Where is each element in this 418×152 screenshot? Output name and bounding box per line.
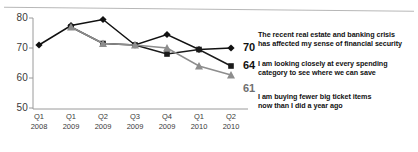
annotation-series-3-line2: now than I did a year ago: [258, 101, 416, 110]
x-axis-tick-1-year: 2009: [54, 122, 88, 132]
endpoint-value-series-1: 70: [243, 41, 255, 53]
x-axis-tick-5: Q1 2010: [182, 112, 216, 132]
x-axis-tick-4: Q4 2009: [150, 112, 184, 132]
annotation-series-2: I am looking closely at every spending c…: [258, 59, 416, 77]
y-tick-marks: [29, 18, 33, 108]
x-axis-tick-4-quarter: Q4: [150, 112, 184, 122]
x-axis-tick-5-quarter: Q1: [182, 112, 216, 122]
x-axis-tick-6: Q2 2010: [214, 112, 248, 132]
series-3-triangle: [67, 23, 235, 78]
x-axis-tick-0: Q1 2008: [22, 112, 56, 132]
series-1-marker-0: [35, 41, 42, 48]
annotation-series-2-line1: I am looking closely at every spending: [258, 59, 416, 68]
series-2-marker-5: [228, 63, 234, 69]
x-axis-tick-0-quarter: Q1: [22, 112, 56, 122]
series-1-marker-4: [163, 31, 170, 38]
x-axis-tick-3-quarter: Q3: [118, 112, 152, 122]
x-axis-tick-5-year: 2010: [182, 122, 216, 132]
x-axis-tick-4-year: 2009: [150, 122, 184, 132]
endpoint-value-series-3: 61: [243, 82, 255, 94]
x-axis-tick-2-year: 2009: [86, 122, 120, 132]
x-axis-tick-6-year: 2010: [214, 122, 248, 132]
annotation-series-1-line1: The recent real estate and banking crisi…: [258, 30, 416, 39]
series-3-marker-4: [195, 62, 203, 69]
annotation-series-1-line2: has affected my sense of financial secur…: [258, 39, 416, 48]
series-2-marker-3: [164, 51, 170, 57]
x-axis-tick-2-quarter: Q2: [86, 112, 120, 122]
endpoint-value-series-2: 64: [243, 59, 255, 71]
annotation-series-3: I am buying fewer big ticket items now t…: [258, 92, 416, 110]
x-axis-tick-2: Q2 2009: [86, 112, 120, 132]
x-axis-tick-3: Q3 2009: [118, 112, 152, 132]
chart-container: 80 70 60 50 Q1 2008 Q1 2009 Q2 2009 Q3 2…: [0, 0, 418, 152]
annotation-series-2-line2: category to see where we can save: [258, 68, 416, 77]
annotation-series-3-line1: I am buying fewer big ticket items: [258, 92, 416, 101]
x-axis-tick-1: Q1 2009: [54, 112, 88, 132]
series-3-line: [71, 27, 231, 75]
x-axis-tick-3-year: 2009: [118, 122, 152, 132]
x-axis-tick-1-quarter: Q1: [54, 112, 88, 122]
series-1-marker-6: [227, 44, 234, 51]
series-layer: [35, 16, 235, 79]
annotation-series-1: The recent real estate and banking crisi…: [258, 30, 416, 48]
x-axis-tick-6-quarter: Q2: [214, 112, 248, 122]
x-axis-tick-0-year: 2008: [22, 122, 56, 132]
series-2-marker-4: [196, 47, 202, 53]
